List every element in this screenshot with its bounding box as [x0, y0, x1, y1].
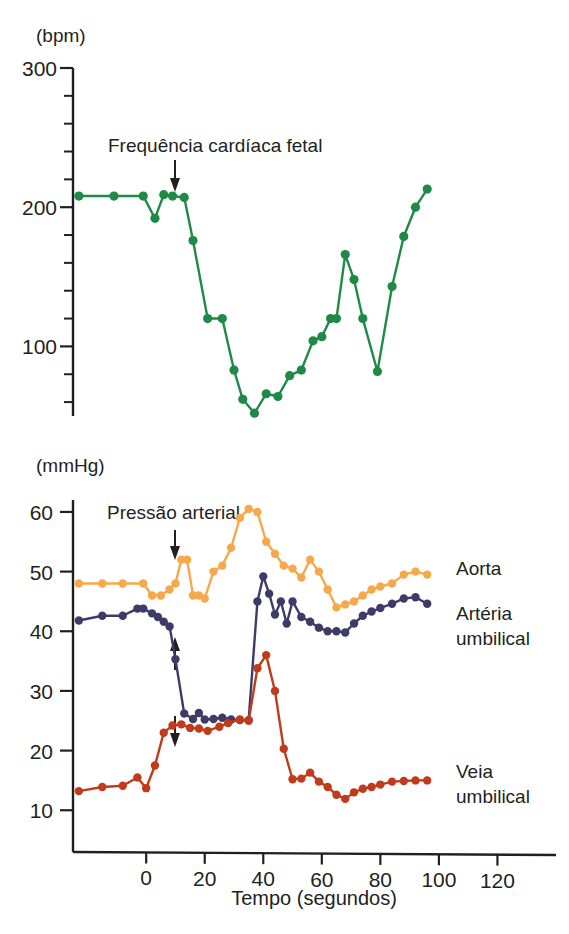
data-point: [177, 720, 185, 728]
data-point: [423, 185, 432, 194]
data-point: [171, 579, 179, 587]
data-point: [411, 203, 420, 212]
bottom-y-tick-labels: 102030405060: [30, 501, 53, 822]
data-point: [259, 572, 267, 580]
data-point: [159, 190, 168, 199]
series-label-aorta: Aorta: [456, 558, 502, 579]
data-point: [297, 365, 306, 374]
data-point: [133, 773, 141, 781]
series-labels: Aorta Artéria umbilical Veia umbilical: [456, 558, 530, 807]
data-point: [119, 579, 127, 587]
data-point: [349, 275, 358, 284]
data-point: [244, 717, 252, 725]
series-line: [79, 509, 427, 607]
data-point: [332, 791, 340, 799]
bottom-y-tick-label-50: 50: [30, 561, 53, 584]
data-point: [250, 409, 259, 418]
data-point: [218, 314, 227, 323]
data-point: [376, 582, 384, 590]
fetal-heart-rate-annotation-label: Frequência cardíaca fetal: [108, 135, 322, 156]
data-point: [180, 193, 189, 202]
data-point: [400, 570, 408, 578]
data-point: [367, 607, 375, 615]
data-point: [139, 579, 147, 587]
arrow-down-icon-veia: [170, 716, 180, 747]
data-point: [236, 514, 244, 522]
x-axis-title: Tempo (segundos): [231, 887, 397, 909]
data-point: [253, 597, 261, 605]
top-annotation: Frequência cardíaca fetal: [108, 135, 322, 192]
bottom-y-tick-label-40: 40: [30, 620, 53, 643]
data-point: [332, 627, 340, 635]
data-point: [332, 603, 340, 611]
data-point: [306, 555, 314, 563]
data-point: [323, 627, 331, 635]
data-point: [188, 236, 197, 245]
data-point: [323, 585, 331, 593]
data-point: [332, 314, 341, 323]
data-point: [160, 728, 168, 736]
data-point: [148, 591, 156, 599]
data-point: [423, 776, 431, 784]
data-point: [280, 561, 288, 569]
data-point: [142, 784, 150, 792]
data-point: [139, 604, 147, 612]
series-label-arteria-umbilical-line2: umbilical: [456, 628, 530, 649]
bottom-x-tick-label-120: 120: [480, 869, 515, 892]
data-point: [98, 612, 106, 620]
data-point: [359, 591, 367, 599]
data-point: [139, 191, 148, 200]
data-point: [288, 564, 296, 572]
data-point: [341, 795, 349, 803]
data-point: [285, 371, 294, 380]
bottom-y-tick-label-60: 60: [30, 501, 53, 524]
data-point: [201, 594, 209, 602]
top-unit-label: (bpm): [36, 25, 86, 46]
data-point: [359, 785, 367, 793]
data-point: [109, 191, 118, 200]
data-point: [315, 567, 323, 575]
data-point: [98, 783, 106, 791]
data-point: [306, 768, 314, 776]
data-point: [350, 788, 358, 796]
data-point: [315, 777, 323, 785]
series-label-arteria-umbilical-line1: Artéria: [456, 603, 512, 624]
data-point: [209, 715, 217, 723]
data-point: [277, 597, 285, 605]
data-point: [282, 619, 290, 627]
data-point: [253, 508, 261, 516]
data-point: [271, 610, 279, 618]
data-point: [75, 787, 83, 795]
data-point: [411, 593, 419, 601]
data-point: [388, 777, 396, 785]
top-y-tick-label-300: 300: [22, 57, 57, 80]
bottom-panel: (mmHg) 102030405060 020406080100120 Pres…: [30, 455, 556, 909]
top-y-tick-marks: [60, 68, 73, 402]
data-point: [244, 505, 252, 513]
blood-pressure-annotation-label: Pressão arterial: [107, 502, 240, 523]
data-point: [288, 597, 296, 605]
data-point: [186, 724, 194, 732]
bottom-annotation: Pressão arterial: [107, 502, 240, 747]
top-series-group: [74, 185, 432, 418]
arrow-down-icon-aorta: [170, 530, 180, 560]
arrow-down-icon: [170, 160, 180, 192]
data-point: [411, 776, 419, 784]
data-point: [373, 367, 382, 376]
data-point: [201, 715, 209, 723]
data-point: [262, 389, 271, 398]
data-point: [358, 314, 367, 323]
data-point: [195, 709, 203, 717]
data-point: [273, 392, 282, 401]
data-point: [341, 628, 349, 636]
data-point: [119, 782, 127, 790]
data-point: [218, 561, 226, 569]
bottom-series-group: [75, 505, 432, 803]
data-point: [376, 780, 384, 788]
data-point: [238, 395, 247, 404]
bottom-x-tick-label-0: 0: [140, 866, 152, 889]
data-point: [376, 604, 384, 612]
data-point: [236, 715, 244, 723]
data-point: [341, 600, 349, 608]
data-point: [271, 687, 279, 695]
